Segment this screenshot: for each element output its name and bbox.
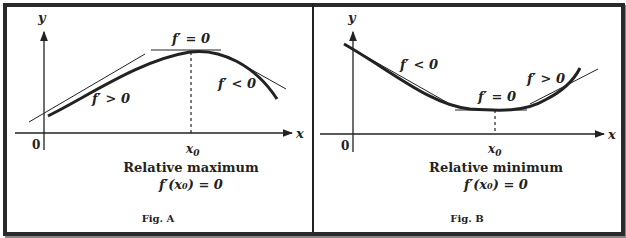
- figure-caption-b: Fig. B: [450, 213, 483, 224]
- y-axis-label-b: y: [347, 10, 357, 25]
- y-axis-label-a: y: [37, 10, 47, 25]
- figure-a: y x 0 f′ = 0 f′ > 0 f′ < 0 x0 Relative m…: [15, 10, 304, 224]
- tangent-left-b: [344, 44, 448, 103]
- caption-title-a: Relative maximum: [123, 160, 259, 175]
- slope-positive-label-b: f′ > 0: [526, 71, 565, 86]
- condition-label-b: f′(x₀) = 0: [463, 177, 528, 192]
- x-axis-label-b: x: [607, 127, 616, 142]
- origin-label-a: 0: [32, 138, 40, 152]
- x0-label-a: x0: [185, 142, 200, 158]
- slope-negative-label-a: f′ < 0: [217, 76, 256, 91]
- diagram-canvas: y x 0 f′ = 0 f′ > 0 f′ < 0 x0 Relative m…: [0, 0, 626, 238]
- tangent-left-a: [29, 54, 145, 122]
- x0-label-b: x0: [487, 142, 502, 158]
- condition-label-a: f′(x₀) = 0: [158, 177, 223, 192]
- x-axis-label-a: x: [295, 126, 304, 141]
- figure-caption-a: Fig. A: [142, 213, 175, 224]
- caption-title-b: Relative minimum: [429, 160, 563, 175]
- slope-negative-label-b: f′ < 0: [399, 57, 438, 72]
- slope-zero-label-b: f′ = 0: [477, 89, 516, 104]
- slope-positive-label-a: f′ > 0: [91, 91, 130, 106]
- origin-label-b: 0: [341, 139, 349, 153]
- figure-b: y x 0 f′ < 0 f′ = 0 f′ > 0 x0 Relative m…: [320, 10, 616, 224]
- slope-zero-label-a: f′ = 0: [171, 31, 210, 46]
